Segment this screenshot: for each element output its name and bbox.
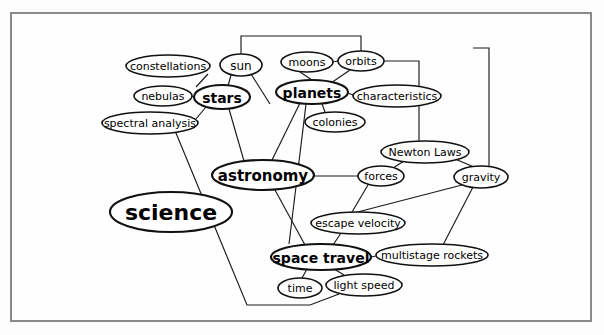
node-gravity[interactable]: gravity bbox=[454, 166, 508, 188]
node-label-spectral-analysis: spectral analysis bbox=[104, 117, 196, 130]
edge-sun-to-orbits bbox=[241, 36, 361, 54]
edge-gravity-top-to-topline bbox=[473, 48, 489, 166]
node-time[interactable]: time bbox=[278, 278, 322, 298]
node-sun[interactable]: sun bbox=[220, 54, 262, 76]
node-multistage-rockets[interactable]: multistage rockets bbox=[376, 244, 488, 266]
edge-planets-to-astronomy bbox=[272, 103, 300, 160]
node-label-escape-velocity: escape velocity bbox=[315, 217, 401, 230]
node-light-speed[interactable]: light speed bbox=[326, 274, 402, 296]
node-label-astronomy: astronomy bbox=[218, 167, 309, 185]
concept-map-graph: scienceastronomystarsplanetsspace travel… bbox=[0, 0, 604, 335]
node-characteristics[interactable]: characteristics bbox=[353, 85, 441, 107]
node-label-science: science bbox=[125, 200, 217, 225]
node-label-forces: forces bbox=[364, 170, 398, 183]
edge-planets-to-colonies bbox=[322, 104, 325, 112]
node-escape-velocity[interactable]: escape velocity bbox=[311, 212, 405, 234]
node-colonies[interactable]: colonies bbox=[305, 112, 365, 132]
node-label-characteristics: characteristics bbox=[357, 90, 438, 103]
node-label-gravity: gravity bbox=[462, 171, 501, 184]
edge-sun-to-planets-down bbox=[251, 74, 270, 104]
node-label-planets: planets bbox=[283, 85, 342, 101]
node-moons[interactable]: moons bbox=[281, 52, 333, 72]
node-label-time: time bbox=[288, 282, 313, 295]
node-label-colonies: colonies bbox=[312, 116, 357, 129]
node-label-moons: moons bbox=[289, 56, 326, 69]
node-newton-laws[interactable]: Newton Laws bbox=[381, 141, 469, 163]
node-label-light-speed: light speed bbox=[333, 279, 394, 292]
node-planets[interactable]: planets bbox=[276, 80, 348, 104]
edge-forces-to-escape-velocity bbox=[352, 185, 368, 212]
node-label-newton-laws: Newton Laws bbox=[388, 146, 461, 159]
node-spectral-analysis[interactable]: spectral analysis bbox=[102, 112, 198, 134]
node-nebulas[interactable]: nebulas bbox=[134, 86, 192, 106]
node-space-travel[interactable]: space travel bbox=[271, 244, 371, 270]
node-label-nebulas: nebulas bbox=[141, 90, 184, 103]
node-label-constellations: constellations bbox=[130, 60, 206, 73]
node-label-space-travel: space travel bbox=[273, 250, 370, 266]
node-constellations[interactable]: constellations bbox=[126, 55, 210, 77]
node-astronomy[interactable]: astronomy bbox=[212, 160, 314, 190]
node-label-orbits: orbits bbox=[345, 55, 377, 68]
node-stars[interactable]: stars bbox=[194, 85, 250, 109]
edge-newton-laws-to-gravity bbox=[455, 159, 474, 167]
edge-moons-to-planets bbox=[300, 72, 312, 80]
node-science[interactable]: science bbox=[110, 192, 232, 232]
node-label-sun: sun bbox=[230, 59, 251, 73]
edge-constellations-to-stars bbox=[196, 74, 208, 87]
node-label-stars: stars bbox=[202, 90, 242, 106]
concept-map-canvas: scienceastronomystarsplanetsspace travel… bbox=[0, 0, 604, 335]
edge-orbits-to-planets bbox=[331, 70, 350, 83]
edge-gravity-to-multistage-rockets bbox=[443, 187, 473, 245]
node-label-multistage-rockets: multistage rockets bbox=[381, 249, 483, 262]
node-orbits[interactable]: orbits bbox=[338, 51, 384, 71]
nodes-layer: scienceastronomystarsplanetsspace travel… bbox=[102, 51, 508, 298]
edge-stars-to-astronomy bbox=[229, 109, 244, 161]
node-forces[interactable]: forces bbox=[358, 166, 404, 186]
edge-gravity-to-forces-low bbox=[346, 185, 462, 215]
edge-escape-velocity-to-space-travel bbox=[333, 233, 341, 245]
